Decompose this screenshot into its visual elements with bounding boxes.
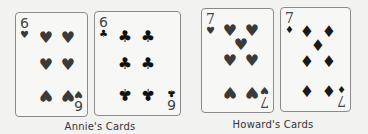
card-howard-7-hearts: 7 ♥ ♥ ♥ ♥ ♥ ♥ ♥ ♥ 7 ♥ bbox=[201, 8, 274, 113]
heart-icon: ♥ bbox=[74, 89, 83, 99]
heart-icon: ♥ bbox=[61, 57, 75, 73]
card-rank: 6 bbox=[99, 15, 108, 29]
heart-icon: ♥ bbox=[39, 30, 53, 46]
club-icon: ♣ bbox=[118, 86, 132, 102]
diamond-icon: ♦ bbox=[285, 25, 294, 35]
diamond-icon: ♦ bbox=[337, 84, 346, 94]
club-icon: ♣ bbox=[118, 29, 132, 45]
card-rank: 6 bbox=[20, 16, 29, 30]
caption-annies-cards: Annie's Cards bbox=[65, 121, 136, 132]
heart-icon: ♥ bbox=[245, 53, 259, 69]
diamond-icon: ♦ bbox=[322, 84, 336, 100]
card-rank: 7 bbox=[206, 12, 215, 26]
diamond-icon: ♦ bbox=[300, 84, 314, 100]
card-corner-bottom: 6 ♣ bbox=[167, 88, 176, 112]
card-corner-top: 7 ♥ bbox=[206, 12, 215, 36]
card-corner-top: 6 ♣ bbox=[99, 15, 108, 39]
club-icon: ♣ bbox=[167, 88, 176, 98]
club-icon: ♣ bbox=[118, 56, 132, 72]
heart-icon: ♥ bbox=[223, 53, 237, 69]
card-corner-top: 6 ♥ bbox=[20, 16, 29, 40]
card-annie-6-clubs: 6 ♣ ♣ ♣ ♣ ♣ ♣ ♣ 6 ♣ bbox=[94, 11, 181, 116]
card-corner-bottom: 7 ♥ bbox=[260, 85, 269, 109]
card-corner-top: 7 ♦ bbox=[285, 11, 294, 35]
club-icon: ♣ bbox=[141, 86, 155, 102]
card-rank: 7 bbox=[337, 94, 346, 108]
heart-icon: ♥ bbox=[260, 85, 269, 95]
heart-icon: ♥ bbox=[245, 84, 259, 100]
heart-icon: ♥ bbox=[206, 26, 215, 36]
heart-icon: ♥ bbox=[61, 30, 75, 46]
card-rank: 6 bbox=[74, 99, 83, 113]
card-corner-bottom: 6 ♥ bbox=[74, 89, 83, 113]
card-rank: 7 bbox=[285, 11, 294, 25]
caption-howards-cards: Howard's Cards bbox=[233, 119, 314, 130]
card-annie-6-hearts: 6 ♥ ♥ ♥ ♥ ♥ ♥ ♥ 6 ♥ bbox=[15, 12, 88, 117]
card-howard-7-diamonds: 7 ♦ ♦ ♦ ♦ ♦ ♦ ♦ ♦ 7 ♦ bbox=[280, 7, 351, 112]
club-icon: ♣ bbox=[141, 29, 155, 45]
heart-icon: ♥ bbox=[223, 84, 237, 100]
diamond-icon: ♦ bbox=[300, 54, 314, 70]
heart-icon: ♥ bbox=[39, 87, 53, 103]
heart-icon: ♥ bbox=[39, 57, 53, 73]
card-corner-bottom: 7 ♦ bbox=[337, 84, 346, 108]
club-icon: ♣ bbox=[141, 56, 155, 72]
card-rank: 6 bbox=[167, 98, 176, 112]
heart-icon: ♥ bbox=[20, 30, 29, 40]
card-rank: 7 bbox=[260, 95, 269, 109]
club-icon: ♣ bbox=[99, 29, 108, 39]
diamond-icon: ♦ bbox=[322, 54, 336, 70]
